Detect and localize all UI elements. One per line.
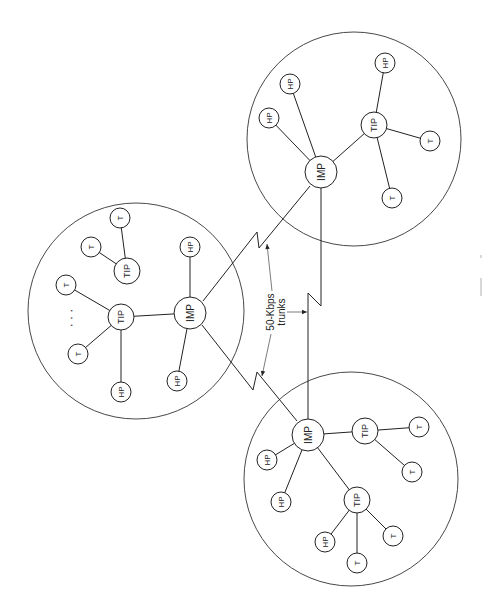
- terminal-node: T: [409, 417, 429, 437]
- trunk-label-line2: trunks: [276, 298, 287, 325]
- terminal-node: T: [81, 237, 101, 257]
- host-node-label: HP: [321, 536, 330, 547]
- terminal-node-label: T: [408, 469, 417, 474]
- trunk-topright-bottom: [308, 188, 321, 419]
- tip-node: TIP: [114, 258, 140, 284]
- host-node: HP: [315, 532, 335, 552]
- host-node-label: HP: [286, 78, 295, 89]
- host-node-label: HP: [117, 386, 126, 397]
- tip-node: TIP: [352, 418, 378, 444]
- host-node-label: HP: [186, 241, 195, 252]
- imp-node-label: IMP: [303, 426, 314, 444]
- terminal-node-label: T: [74, 351, 83, 356]
- tip-node-label: TIP: [369, 118, 379, 132]
- host-node-label: HP: [265, 112, 274, 123]
- imp-node: IMP: [305, 156, 337, 188]
- host-node-label: HP: [381, 57, 390, 68]
- site-left-boundary: [28, 203, 244, 419]
- host-node: HP: [167, 371, 187, 391]
- imp-node-label: IMP: [316, 163, 327, 181]
- more-terminals-ellipsis: · · ·: [64, 309, 78, 328]
- arrowhead-icon: [302, 310, 307, 314]
- trunk-lines: [202, 186, 321, 421]
- terminal-node: T: [420, 131, 440, 151]
- network-nodes: IMPTIPTIPHPHPHPTTTTIMPTIPHPHPHPTTIMPTIPT…: [56, 53, 440, 573]
- tip-node: TIP: [361, 112, 387, 138]
- tip-node: TIP: [108, 304, 134, 330]
- host-node-label: HP: [277, 496, 286, 507]
- tip-node: TIP: [344, 487, 370, 513]
- terminal-node-label: T: [87, 244, 96, 249]
- host-node: HP: [111, 382, 131, 402]
- terminal-node: T: [402, 462, 422, 482]
- terminal-node: T: [56, 275, 76, 295]
- trunk-label: 50-Kbps trunks: [265, 293, 287, 330]
- terminal-node-label: T: [389, 533, 398, 538]
- imp-node: IMP: [174, 297, 206, 329]
- host-node: HP: [271, 492, 291, 512]
- trunk-label-line1: 50-Kbps: [265, 293, 276, 330]
- tip-node-label: TIP: [116, 310, 126, 324]
- terminal-node-label: T: [426, 138, 435, 143]
- host-node-label: HP: [263, 454, 272, 465]
- terminal-node-label: T: [116, 215, 125, 220]
- imp-node-label: IMP: [185, 304, 196, 322]
- terminal-node: T: [110, 208, 130, 228]
- terminal-node-label: T: [62, 282, 71, 287]
- terminal-node-label: T: [388, 195, 397, 200]
- tip-node-label: TIP: [352, 493, 362, 507]
- host-node: HP: [180, 237, 200, 257]
- terminal-node: T: [382, 188, 402, 208]
- host-node: HP: [259, 108, 279, 128]
- terminal-node-label: T: [353, 560, 362, 565]
- imp-node: IMP: [292, 419, 324, 451]
- pointer-upper-line: [267, 244, 272, 291]
- arrowhead-icon: [261, 371, 265, 376]
- site-bottom-boundary: [244, 372, 458, 586]
- trunk-left-topright: [203, 186, 310, 301]
- host-node: HP: [375, 53, 395, 73]
- host-node: HP: [257, 450, 277, 470]
- arpanet-topology-diagram: IMPTIPTIPHPHPHPTTTTIMPTIPHPHPHPTTIMPTIPT…: [0, 0, 483, 611]
- terminal-node: T: [383, 526, 403, 546]
- terminal-node-label: T: [415, 424, 424, 429]
- arrowhead-icon: [265, 244, 269, 249]
- site-regions: [28, 32, 461, 586]
- host-node-label: HP: [173, 375, 182, 386]
- terminal-node: T: [347, 553, 367, 573]
- tip-node-label: TIP: [122, 264, 132, 278]
- trunk-left-bottom: [202, 325, 297, 421]
- pointer-lower-line: [262, 334, 271, 376]
- terminal-node: T: [68, 344, 88, 364]
- tip-node-label: TIP: [360, 424, 370, 438]
- host-node: HP: [280, 74, 300, 94]
